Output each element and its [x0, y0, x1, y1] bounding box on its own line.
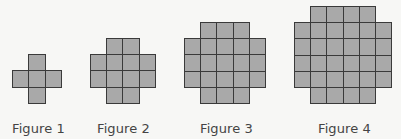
grid-square [216, 71, 233, 88]
grid-square [249, 38, 266, 55]
grid-square [216, 38, 233, 55]
grid-square [106, 87, 123, 104]
grid-square [326, 22, 343, 39]
grid-square [359, 22, 376, 39]
grid-square [90, 54, 107, 71]
grid-square [106, 54, 123, 71]
grid-square [233, 87, 250, 104]
grid-square [375, 38, 392, 55]
grid-square [216, 22, 233, 39]
grid-square [294, 55, 311, 72]
grid-square [359, 71, 376, 88]
grid-square [28, 87, 46, 105]
grid-square [249, 54, 266, 71]
figure-2-label: Figure 2 [97, 121, 150, 136]
grid-square [122, 54, 139, 71]
grid-square [106, 38, 123, 55]
grid-square [375, 22, 392, 39]
grid-square [310, 87, 327, 104]
grid-square [310, 6, 327, 23]
grid-square [343, 55, 360, 72]
grid-square [233, 22, 250, 39]
grid-square [249, 71, 266, 88]
grid-square [28, 70, 46, 88]
grid-square [184, 71, 201, 88]
grid-square [122, 38, 139, 55]
grid-square [375, 71, 392, 88]
figure-1-label: Figure 1 [12, 121, 65, 136]
grid-square [12, 70, 30, 88]
grid-square [310, 38, 327, 55]
grid-square [310, 55, 327, 72]
grid-square [343, 71, 360, 88]
grid-square [343, 38, 360, 55]
grid-square [233, 38, 250, 55]
grid-square [90, 70, 107, 87]
grid-square [233, 54, 250, 71]
grid-square [294, 38, 311, 55]
grid-square [139, 70, 156, 87]
grid-square [216, 54, 233, 71]
grid-square [216, 87, 233, 104]
grid-square [359, 38, 376, 55]
grid-square [28, 54, 46, 72]
grid-square [310, 71, 327, 88]
grid-square [359, 55, 376, 72]
grid-square [122, 70, 139, 87]
figure-3-label: Figure 3 [200, 121, 253, 136]
grid-square [343, 87, 360, 104]
grid-square [294, 71, 311, 88]
grid-square [343, 6, 360, 23]
grid-square [375, 55, 392, 72]
grid-square [184, 38, 201, 55]
grid-square [122, 87, 139, 104]
grid-square [233, 71, 250, 88]
grid-square [326, 87, 343, 104]
grid-square [200, 22, 217, 39]
grid-square [343, 22, 360, 39]
grid-square [106, 70, 123, 87]
grid-square [310, 22, 327, 39]
grid-square [326, 38, 343, 55]
grid-square [184, 54, 201, 71]
grid-square [294, 22, 311, 39]
grid-square [200, 87, 217, 104]
grid-square [326, 6, 343, 23]
grid-square [200, 71, 217, 88]
grid-square [200, 38, 217, 55]
grid-square [326, 71, 343, 88]
grid-square [45, 70, 63, 88]
grid-square [359, 6, 376, 23]
grid-square [326, 55, 343, 72]
grid-square [139, 54, 156, 71]
figure-4-label: Figure 4 [318, 121, 371, 136]
grid-square [200, 54, 217, 71]
grid-square [359, 87, 376, 104]
